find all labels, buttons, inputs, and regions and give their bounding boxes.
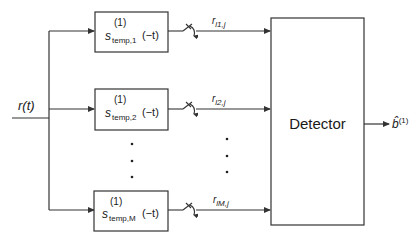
- filter-M-sup: (1): [110, 196, 122, 207]
- filter-M-sub: temp,M: [109, 214, 136, 223]
- sample-label-1: rl1,j: [212, 15, 226, 29]
- sampler-ellipsis: [226, 138, 229, 174]
- filter-1-sup: (1): [114, 17, 126, 28]
- filter-ellipsis: [131, 143, 134, 179]
- output-label: b̂(1): [392, 116, 409, 131]
- filter-box-2: (1) s temp,2 (−t): [95, 89, 168, 130]
- detector-block: Detector: [271, 18, 364, 225]
- filter-1-main: s: [105, 29, 111, 43]
- filter-2-main: s: [105, 106, 111, 120]
- filter-box-M: (1) s temp,M (−t): [94, 191, 168, 231]
- filter-M-main: s: [102, 207, 108, 221]
- input-label: r(t): [18, 98, 35, 113]
- sample-label-M: rlM,j: [213, 194, 229, 208]
- filter-2-sub: temp,2: [112, 113, 137, 122]
- filter-1-sub: temp,1: [112, 36, 137, 45]
- sample-label-2: rl2,j: [212, 93, 226, 107]
- input-line: [12, 31, 94, 210]
- filter-box-1: (1) s temp,1 (−t): [95, 12, 168, 52]
- filter-1-arg: (−t): [142, 29, 159, 41]
- block-diagram: r(t) (1) s temp,1 (−t) (1) s temp,2 (−t)…: [0, 0, 419, 242]
- filter-2-arg: (−t): [142, 106, 159, 118]
- filter-M-arg: (−t): [142, 207, 159, 219]
- filter-2-sup: (1): [114, 94, 126, 105]
- detector-label: Detector: [289, 115, 346, 132]
